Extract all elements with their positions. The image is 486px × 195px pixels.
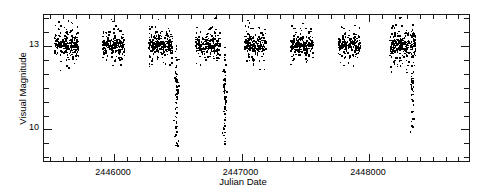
- x-tick-bottom: [76, 157, 77, 161]
- data-point: [413, 62, 415, 64]
- data-point: [393, 43, 395, 45]
- y-tick-right: [464, 18, 469, 19]
- data-point: [217, 53, 219, 55]
- data-point: [393, 49, 395, 51]
- data-point: [223, 128, 225, 130]
- y-tick-right: [464, 102, 469, 103]
- data-point: [403, 43, 405, 45]
- data-point: [72, 56, 74, 58]
- data-point: [212, 41, 214, 43]
- data-point: [310, 28, 312, 30]
- data-point: [177, 89, 179, 91]
- data-point: [154, 51, 156, 53]
- data-point: [175, 51, 177, 53]
- data-point: [249, 60, 251, 62]
- data-point: [223, 111, 225, 113]
- x-tick-top: [101, 15, 102, 19]
- data-point: [397, 66, 399, 68]
- data-point: [149, 55, 151, 57]
- data-point: [175, 57, 177, 59]
- data-point: [257, 54, 259, 56]
- y-tick-right: [464, 88, 469, 89]
- data-point: [355, 45, 357, 47]
- y-tick-right: [461, 129, 469, 130]
- data-point: [115, 25, 117, 27]
- data-point: [294, 28, 296, 30]
- data-point: [152, 39, 154, 41]
- data-point: [411, 56, 413, 58]
- data-point: [158, 19, 160, 21]
- data-point: [406, 30, 408, 32]
- x-tick-bottom: [101, 157, 102, 161]
- data-point: [60, 70, 62, 72]
- data-point: [178, 92, 180, 94]
- x-tick-bottom: [242, 154, 243, 161]
- data-point: [203, 43, 205, 45]
- data-point: [119, 54, 121, 56]
- x-tick-bottom: [63, 157, 64, 161]
- data-point: [410, 131, 412, 133]
- data-point: [151, 60, 153, 62]
- data-point: [339, 49, 341, 51]
- data-point: [196, 63, 198, 65]
- data-point: [258, 36, 260, 38]
- data-point: [205, 39, 207, 41]
- data-point: [77, 41, 79, 43]
- data-point: [60, 32, 62, 34]
- data-point: [291, 25, 293, 27]
- data-point: [295, 32, 297, 34]
- data-point: [165, 63, 167, 65]
- data-point: [292, 60, 294, 62]
- data-point: [202, 37, 204, 39]
- data-point: [165, 46, 167, 48]
- data-point: [301, 30, 303, 32]
- data-point: [178, 140, 180, 142]
- data-point: [120, 64, 122, 66]
- data-point: [58, 21, 60, 23]
- data-point: [200, 64, 202, 66]
- data-point: [341, 26, 343, 28]
- data-point: [251, 40, 253, 42]
- data-point: [303, 50, 305, 52]
- data-point: [177, 112, 179, 114]
- data-point: [344, 42, 346, 44]
- data-point: [357, 57, 359, 59]
- data-point: [305, 54, 307, 56]
- data-point: [394, 51, 396, 53]
- x-tick-top: [267, 15, 268, 19]
- data-point: [72, 29, 74, 31]
- data-point: [168, 28, 170, 30]
- data-point: [114, 48, 116, 50]
- data-point: [122, 34, 124, 36]
- data-point: [212, 39, 214, 41]
- data-point: [412, 100, 414, 102]
- data-point: [293, 28, 295, 30]
- data-point: [393, 46, 395, 48]
- data-point: [354, 39, 356, 41]
- data-point: [412, 24, 414, 26]
- data-point: [389, 40, 391, 42]
- data-point: [160, 38, 162, 40]
- data-point: [175, 67, 177, 69]
- data-point: [202, 53, 204, 55]
- data-point: [224, 92, 226, 94]
- data-point: [206, 36, 208, 38]
- data-point: [248, 49, 250, 51]
- data-point: [105, 51, 107, 53]
- data-point: [245, 42, 247, 44]
- data-point: [297, 36, 299, 38]
- data-point: [295, 34, 297, 36]
- data-point: [55, 46, 57, 48]
- data-point: [252, 45, 254, 47]
- data-point: [102, 57, 104, 59]
- data-point: [312, 42, 314, 44]
- x-tick-bottom: [89, 157, 90, 161]
- data-point: [224, 106, 226, 108]
- data-point: [210, 39, 212, 41]
- data-point: [299, 44, 301, 46]
- data-point: [413, 38, 415, 40]
- data-point: [307, 60, 309, 62]
- data-point: [342, 35, 344, 37]
- data-point: [76, 59, 78, 61]
- data-point: [117, 29, 119, 31]
